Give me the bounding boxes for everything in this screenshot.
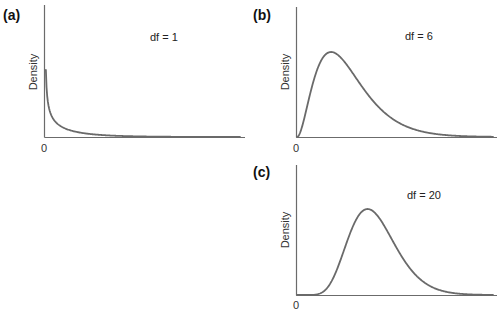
panel-c: (c) Density df = 20 0 xyxy=(253,164,497,310)
panel-c-label: (c) xyxy=(253,164,270,180)
panel-b-zero-tick: 0 xyxy=(293,142,299,154)
panel-b: (b) Density df = 6 0 xyxy=(253,7,497,154)
panel-a-zero-tick: 0 xyxy=(41,142,47,154)
panel-a: (a) Density df = 1 0 xyxy=(3,5,245,154)
panel-a-label: (a) xyxy=(3,7,20,23)
panel-a-df-annotation: df = 1 xyxy=(150,31,178,43)
panel-b-df-annotation: df = 6 xyxy=(405,30,433,42)
panel-c-density-curve xyxy=(297,209,493,295)
panel-b-density-curve xyxy=(297,52,493,137)
panel-c-y-label: Density xyxy=(279,211,291,248)
panel-a-density-curve xyxy=(46,70,240,137)
panel-c-zero-tick: 0 xyxy=(293,299,299,310)
chi-square-figure: (a) Density df = 1 0 (b) Density df = 6 … xyxy=(0,0,501,310)
panel-a-y-label: Density xyxy=(27,53,39,90)
panel-b-y-label: Density xyxy=(279,53,291,90)
panel-c-df-annotation: df = 20 xyxy=(407,189,441,201)
panel-b-label: (b) xyxy=(253,7,271,23)
